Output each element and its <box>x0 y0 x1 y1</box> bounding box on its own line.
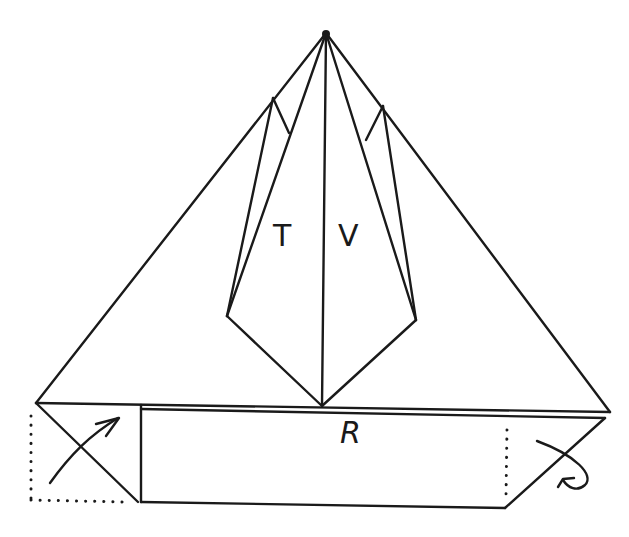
bottom-band <box>36 403 605 508</box>
label-v: V <box>338 221 359 251</box>
center-crease <box>322 33 326 406</box>
fold-behind-arrow-icon <box>537 441 588 489</box>
origami-diagram: T V R <box>0 0 629 537</box>
label-t: T <box>273 221 291 251</box>
diagram-canvas <box>0 0 629 537</box>
right-dotted-line <box>506 430 507 498</box>
label-r: R <box>340 418 361 448</box>
